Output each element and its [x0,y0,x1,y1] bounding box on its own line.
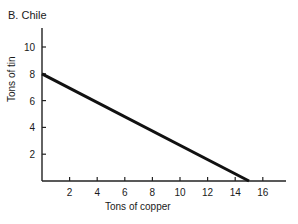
x-tick-label: 12 [202,187,214,198]
x-tick-label: 4 [94,187,100,198]
x-tick-label: 16 [257,187,269,198]
y-tick-label: 2 [29,149,35,160]
x-tick-label: 14 [230,187,242,198]
x-tick-label: 8 [150,187,156,198]
x-ticks: 246810121416 [67,177,269,198]
data-series [42,74,249,181]
x-tick-label: 6 [122,187,128,198]
y-tick-label: 4 [29,122,35,133]
y-tick-label: 8 [29,69,35,80]
y-tick-label: 10 [24,42,36,53]
ppf-line [42,74,249,181]
y-tick-label: 6 [29,96,35,107]
chart-plot-area: 246810121416 246810 [0,0,298,224]
x-tick-label: 2 [67,187,73,198]
x-tick-label: 10 [174,187,186,198]
axes [42,28,286,181]
